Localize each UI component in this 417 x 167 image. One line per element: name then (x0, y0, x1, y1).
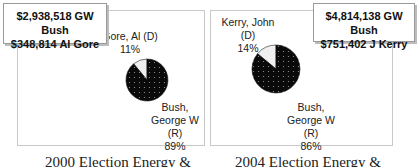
pie-2000 (124, 57, 170, 103)
label-bush-2004: Bush, George W (R) 86% (286, 101, 336, 153)
slice-bush-2000 (126, 59, 168, 101)
chart-2000-title: 2000 Election Energy & (45, 154, 191, 167)
label-bush-2000: Bush, George W (R) 89% (150, 101, 200, 153)
chart-2004-title: 2004 Election Energy & (235, 154, 381, 167)
label-kerry: Kerry, John (D) 14% (218, 16, 278, 55)
callout-2000: $2,938,518 GW Bush $348,814 Al Gore (3, 3, 107, 44)
callout-2004: $4,814,138 GW Bush $751,402 J Kerry (313, 3, 415, 42)
